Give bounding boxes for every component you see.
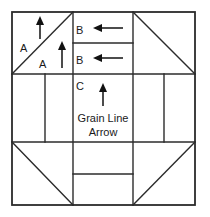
grain-line-text-line2: Arrow [89,126,118,138]
grain-line-text-line1: Grain Line [78,112,129,124]
label-b-lower: B [76,54,83,66]
grain-arrow-a-upper-icon [36,16,44,39]
bottom-left-diagonal [12,142,73,205]
label-a-lower: A [39,58,47,70]
bottom-right-diagonal [133,142,195,205]
grain-arrow-b-upper-icon [93,24,123,32]
quilt-diagram-canvas: A A B B C Grain Line Arrow [0,0,210,217]
label-c-center: C [76,80,84,92]
label-b-upper: B [76,24,83,36]
grain-arrow-b-lower-icon [93,54,123,62]
grain-arrow-c-center-icon [99,83,107,106]
quilt-block-diagram: A A B B C Grain Line Arrow [0,0,210,217]
top-right-diagonal [133,12,195,74]
label-a-upper: A [20,42,28,54]
grain-arrow-a-lower-icon [58,41,66,68]
block-outer-frame [12,12,195,205]
